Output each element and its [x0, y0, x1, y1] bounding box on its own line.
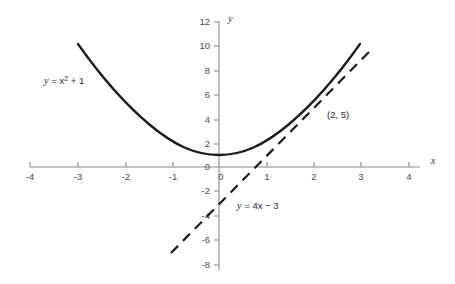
y-tick-label: 2 [205, 138, 210, 149]
coordinate-plane-svg: -4 -3 -2 -1 0 1 2 3 4 12 10 8 6 4 2 0 -2… [0, 0, 455, 284]
y-tick-label: 10 [199, 40, 210, 51]
y-tick-label: 6 [205, 89, 210, 100]
x-tick-label: 2 [311, 171, 316, 182]
tangent-equation-label: y = 4x − 3 [236, 200, 279, 211]
x-tick-label: -1 [169, 171, 177, 182]
x-tick-label-zero: 0 [218, 171, 223, 182]
graph-figure: -4 -3 -2 -1 0 1 2 3 4 12 10 8 6 4 2 0 -2… [0, 0, 455, 284]
svg-text:y = 4x − 3: y = 4x − 3 [236, 200, 279, 211]
x-axis-label: x [430, 155, 436, 166]
x-tick-label: 4 [406, 171, 411, 182]
x-tick-label: -4 [26, 171, 34, 182]
y-axis-label: y [227, 13, 233, 24]
y-tick-label: -2 [202, 185, 210, 196]
y-tick-label: -8 [202, 259, 210, 270]
tangency-point-label: (2, 5) [327, 109, 349, 120]
x-tick-label: -2 [122, 171, 130, 182]
y-tick-label: 8 [205, 65, 210, 76]
parabola-eq-base: = x [49, 75, 65, 86]
plot-background [0, 0, 455, 284]
svg-text:y = x2 + 1: y = x2 + 1 [43, 75, 84, 87]
x-tick-label: -3 [74, 171, 82, 182]
y-tick-label: -6 [202, 234, 210, 245]
y-tick-label: 12 [199, 16, 210, 27]
parabola-equation-label: y = x2 + 1 [43, 75, 84, 87]
y-tick-label-zero: 0 [205, 161, 210, 172]
x-tick-label: 1 [264, 171, 269, 182]
parabola-eq-tail: + 1 [68, 75, 84, 86]
tangent-eq-rhs: = 4x − 3 [242, 200, 279, 211]
x-tick-label: 3 [358, 171, 363, 182]
y-tick-label: 4 [205, 114, 210, 125]
